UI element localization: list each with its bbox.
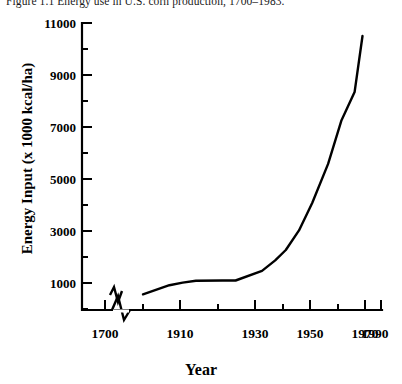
axis-lines — [82, 23, 382, 310]
x-axis-break — [112, 296, 130, 320]
x-major-ticks — [105, 300, 381, 310]
data-series-line — [143, 36, 363, 294]
chart-svg — [0, 0, 402, 384]
chart-plot-area: Energy Input (x 1000 kcal/ha) Year 11000… — [0, 0, 402, 384]
